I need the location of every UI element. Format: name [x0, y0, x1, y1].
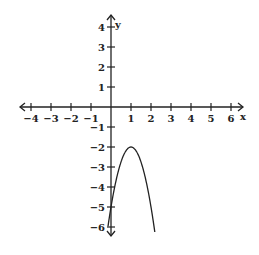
y-tick-label: −1	[90, 122, 105, 133]
y-tick-label: −6	[90, 222, 105, 233]
x-tick-label: 6	[228, 113, 235, 124]
x-tick-label: −4	[23, 113, 38, 124]
graph: −4−3−2−1123456 4321−1−2−3−4−5−6 x y	[0, 0, 259, 255]
y-tick-label: −3	[90, 162, 105, 173]
y-tick-label: 4	[98, 22, 105, 33]
y-tick-label: −4	[90, 182, 105, 193]
y-tick-label: 3	[98, 42, 105, 53]
y-tick-label: −5	[90, 202, 105, 213]
x-tick-label: −3	[43, 113, 58, 124]
x-tick-label: 3	[168, 113, 175, 124]
x-tick-label: −2	[63, 113, 78, 124]
y-tick-label: 2	[98, 62, 105, 73]
y-tick-label: 1	[98, 82, 105, 93]
y-tick-label: −2	[90, 142, 105, 153]
y-axis-label: y	[114, 19, 122, 30]
x-tick-label: 2	[148, 113, 155, 124]
x-tick-label: 5	[208, 113, 215, 124]
x-tick-label: 1	[128, 113, 135, 124]
parabola-curve	[108, 147, 155, 232]
x-axis-label: x	[240, 111, 247, 122]
x-tick-label: 4	[188, 113, 195, 124]
